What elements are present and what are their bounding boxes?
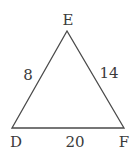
vertex-label-d: D [10,133,22,151]
side-length-de: 8 [23,66,33,84]
triangle-diagram: E D F 8 14 20 [0,0,136,153]
side-length-df: 20 [65,133,84,151]
side-length-ef: 14 [99,64,118,82]
vertex-label-e: E [63,11,74,29]
vertex-label-f: F [119,133,129,151]
triangle-svg: E D F 8 14 20 [0,0,136,153]
